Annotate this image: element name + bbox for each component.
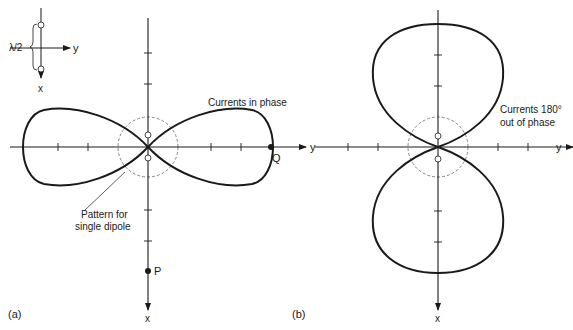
point-q bbox=[268, 144, 274, 150]
dipole-element-bottom-b bbox=[435, 156, 441, 162]
annotation-currents-180-line2: out of phase bbox=[500, 117, 555, 128]
inset-spacing-label: λ/2 bbox=[9, 42, 23, 53]
dipole-element-bottom bbox=[145, 155, 151, 161]
point-p bbox=[145, 268, 151, 274]
inset-dipole-element-top bbox=[38, 22, 44, 28]
dipole-pattern-diagram: λ/2 y x Q P bbox=[0, 0, 573, 330]
panel-b: y x Currents 180° out of phase (b) bbox=[292, 10, 573, 324]
inset-brace bbox=[30, 24, 37, 70]
panel-b-x-label: x bbox=[435, 313, 440, 324]
annotation-currents-180-line1: Currents 180° bbox=[500, 104, 562, 115]
point-q-label: Q bbox=[272, 152, 281, 164]
inset-x-label: x bbox=[38, 83, 43, 94]
annotation-single-dipole-line2: single dipole bbox=[75, 221, 131, 232]
panel-a-x-label: x bbox=[145, 313, 150, 324]
panel-a: Q P y x Currents in phase Pattern for si… bbox=[8, 18, 316, 324]
single-dipole-leader-line bbox=[84, 172, 125, 211]
panel-b-label: (b) bbox=[292, 308, 305, 320]
dipole-element-top-b bbox=[435, 133, 441, 139]
annotation-single-dipole-line1: Pattern for bbox=[81, 209, 128, 220]
panel-b-y-label: y bbox=[556, 141, 562, 153]
inset-dipole-element-bottom bbox=[38, 66, 44, 72]
inset-dipole-geometry: λ/2 y x bbox=[9, 8, 79, 94]
dipole-element-top bbox=[145, 132, 151, 138]
point-p-label: P bbox=[154, 265, 161, 277]
inset-y-label: y bbox=[73, 42, 79, 54]
panel-a-label: (a) bbox=[8, 308, 21, 320]
annotation-currents-in-phase: Currents in phase bbox=[208, 97, 287, 108]
